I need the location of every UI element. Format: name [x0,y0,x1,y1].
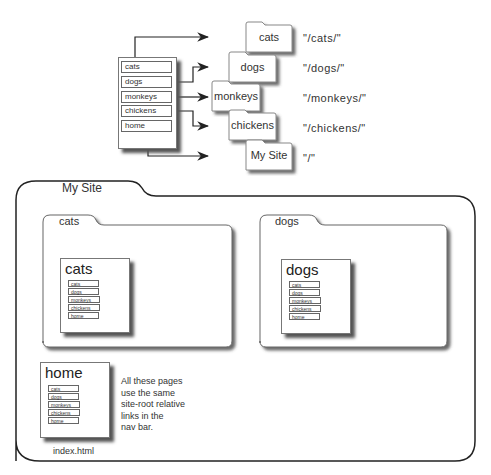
folder-label-chickens: chickens [229,119,276,131]
nav-item-monkeys[interactable]: monkeys [121,91,172,103]
path-chickens: "/chickens/" [303,122,366,134]
nav-item-chickens[interactable]: chickens [289,305,321,312]
path-monkeys: "/monkeys/" [303,92,366,104]
path-cats: "/cats/" [303,32,341,44]
nav-item-home[interactable]: home [121,120,172,132]
cats-page-title: cats [65,260,93,277]
nav-item-cats[interactable]: cats [289,281,320,288]
nav-item-home[interactable]: home [289,313,320,320]
dogs-page-title: dogs [286,261,319,278]
nav-item-dogs[interactable]: dogs [289,289,320,296]
note-line: nav bar. [121,422,185,434]
nav-item-monkeys[interactable]: monkeys [289,297,321,304]
home-page: home cats dogs monkeys chickens home [40,362,110,438]
folder-label-monkeys: monkeys [212,90,260,102]
path-dogs: "/dogs/" [303,62,345,74]
dogs-folder-label: dogs [275,215,299,227]
nav-item-dogs[interactable]: dogs [121,76,172,88]
cats-page: cats cats dogs monkeys chickens home [60,258,130,333]
arrow-dogs [178,67,208,82]
note-line: links in the [121,411,185,423]
nav-item-home[interactable]: home [68,312,99,319]
arrow-home [148,148,208,156]
nav-page: cats dogs monkeys chickens home [118,57,177,149]
nav-item-cats[interactable]: cats [48,385,79,392]
cats-folder-label: cats [59,215,79,227]
dogs-page: dogs cats dogs monkeys chickens home [281,259,351,334]
nav-item-dogs[interactable]: dogs [48,393,79,400]
nav-item-cats[interactable]: cats [68,280,99,287]
nav-item-chickens[interactable]: chickens [48,409,80,416]
note-line: site-root relative [121,399,185,411]
nav-item-chickens[interactable]: chickens [68,304,100,311]
folder-label-cats: cats [246,31,292,43]
mysite-folder-label: My Site [62,181,102,195]
note-line: All these pages [121,376,185,388]
home-page-title: home [45,364,83,381]
explanation-note: All these pages use the same site-root r… [121,376,185,434]
nav-item-cats[interactable]: cats [121,61,172,73]
nav-item-monkeys[interactable]: monkeys [68,296,100,303]
arrow-chickens [178,111,208,126]
arrow-cats [135,37,208,57]
folder-label-dogs: dogs [229,61,276,73]
home-filename: index.html [53,446,94,456]
path-root: "/" [303,152,315,164]
nav-item-dogs[interactable]: dogs [68,288,99,295]
nav-item-chickens[interactable]: chickens [121,105,172,117]
folder-label-mysite: My Site [246,149,292,161]
note-line: use the same [121,388,185,400]
nav-item-monkeys[interactable]: monkeys [48,401,80,408]
nav-item-home[interactable]: home [48,417,79,424]
